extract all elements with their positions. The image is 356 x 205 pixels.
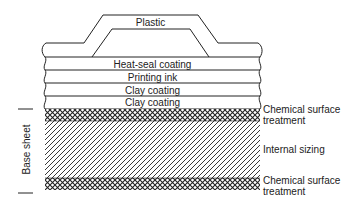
internal-sizing-layer bbox=[45, 121, 260, 178]
label-internal-sizing: Internal sizing bbox=[263, 144, 325, 155]
chemical-surface-treatment-bottom bbox=[45, 178, 260, 190]
label-chemical-surface-top-line2: treatment bbox=[263, 115, 305, 126]
label-printing-ink: Printing ink bbox=[45, 72, 260, 83]
label-chemical-surface-bottom-line1: Chemical surface bbox=[263, 175, 340, 186]
label-chemical-surface-bottom-line2: treatment bbox=[263, 186, 305, 197]
label-heat-seal-coating: Heat-seal coating bbox=[45, 59, 260, 70]
label-clay-coating-1: Clay coating bbox=[45, 85, 260, 96]
label-chemical-surface-top-line1: Chemical surface bbox=[263, 104, 340, 115]
label-clay-coating-2: Clay coating bbox=[45, 97, 260, 108]
label-base-sheet: Base sheet bbox=[21, 120, 32, 180]
label-plastic: Plastic bbox=[103, 17, 198, 28]
chemical-surface-treatment-top bbox=[45, 109, 260, 121]
